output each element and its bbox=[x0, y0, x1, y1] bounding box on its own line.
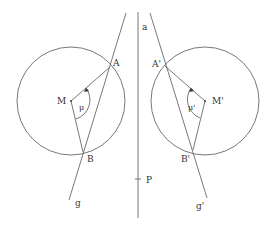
label-m-prime: M' bbox=[212, 96, 224, 106]
label-a-prime: A' bbox=[151, 59, 161, 69]
label-mu-prime: μ' bbox=[188, 103, 195, 112]
label-b: B bbox=[87, 154, 94, 164]
label-mu: μ bbox=[79, 103, 84, 112]
label-a-axis: a bbox=[142, 22, 148, 32]
center-m-prime-dot bbox=[204, 100, 206, 102]
label-a: A bbox=[112, 58, 120, 68]
reflection-diagram: M A B μ g a P A' M' B' μ' g' bbox=[0, 0, 269, 236]
label-b-prime: B' bbox=[181, 154, 190, 164]
label-p: P bbox=[146, 175, 152, 185]
segment-m-prime-a-prime bbox=[165, 66, 205, 101]
label-g: g bbox=[75, 198, 81, 208]
line-g bbox=[69, 13, 126, 200]
label-g-prime: g' bbox=[196, 201, 204, 211]
label-m: M bbox=[57, 96, 66, 106]
center-m-dot bbox=[70, 100, 72, 102]
line-g-prime bbox=[150, 13, 207, 198]
